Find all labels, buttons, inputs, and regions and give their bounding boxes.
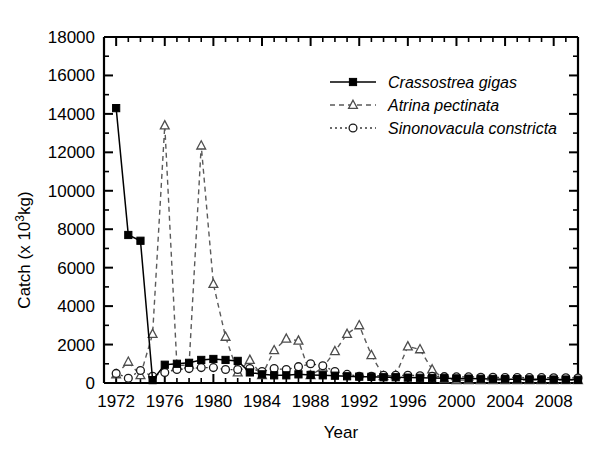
data-point-marker: [209, 364, 217, 372]
data-point-marker: [319, 362, 327, 370]
svg-text:Catch (x 103kg): Catch (x 103kg): [13, 191, 34, 308]
data-point-marker: [234, 357, 241, 364]
data-point-marker: [441, 375, 448, 382]
data-point-marker: [392, 374, 399, 381]
data-point-marker: [185, 359, 192, 366]
data-point-marker: [258, 371, 265, 378]
x-tick-label: 2008: [535, 392, 573, 411]
y-axis-title-pre: Catch (x 10: [15, 222, 34, 309]
data-point-marker: [113, 105, 120, 112]
data-point-marker: [210, 355, 217, 362]
data-point-marker: [404, 374, 411, 381]
data-point-marker: [161, 369, 169, 377]
legend-marker: [349, 124, 357, 132]
chart-svg: 0200040006000800010000120001400016000180…: [0, 0, 609, 461]
data-point-marker: [403, 342, 412, 350]
data-point-marker: [307, 360, 315, 368]
data-point-marker: [380, 374, 387, 381]
data-point-marker: [137, 237, 144, 244]
data-point-marker: [124, 357, 133, 365]
data-point-marker: [125, 231, 132, 238]
x-tick-label: 1984: [243, 392, 281, 411]
y-axis-title-post: kg): [15, 191, 34, 215]
x-tick-label: 1976: [146, 392, 184, 411]
data-point-marker: [209, 279, 218, 287]
data-point-marker: [160, 121, 169, 129]
data-point-marker: [222, 366, 230, 374]
data-point-marker: [295, 371, 302, 378]
series-markers: [112, 121, 583, 384]
data-point-marker: [331, 346, 340, 354]
plot-series-group: [112, 105, 583, 384]
data-point-marker: [574, 376, 581, 383]
data-point-marker: [137, 367, 145, 375]
series-line: [116, 125, 578, 380]
data-point-marker: [355, 321, 364, 329]
y-tick-label: 12000: [48, 143, 95, 162]
data-point-marker: [234, 366, 242, 374]
data-point-marker: [343, 373, 350, 380]
data-point-marker: [416, 374, 423, 381]
x-axis-title: Year: [324, 423, 359, 442]
series-atrina-pectinata: [112, 121, 583, 384]
x-tick-label: 1996: [389, 392, 427, 411]
data-point-marker: [331, 372, 338, 379]
data-point-marker: [246, 369, 253, 376]
legend-item: Sinonovacula constricta: [330, 120, 557, 137]
data-point-marker: [270, 346, 279, 354]
data-point-marker: [356, 373, 363, 380]
data-point-marker: [538, 376, 545, 383]
data-point-marker: [465, 375, 472, 382]
x-tick-label: 1980: [194, 392, 232, 411]
data-point-marker: [271, 372, 278, 379]
data-point-marker: [416, 345, 425, 353]
series-line: [116, 108, 578, 380]
x-tick-label: 1988: [292, 392, 330, 411]
legend-item: Crassostrea gigas: [330, 74, 517, 91]
legend-label: Sinonovacula constricta: [388, 120, 557, 137]
data-point-marker: [112, 369, 120, 377]
y-axis-tick-labels: 0200040006000800010000120001400016000180…: [48, 28, 95, 393]
data-point-marker: [343, 329, 352, 337]
y-tick-label: 14000: [48, 105, 95, 124]
data-point-marker: [149, 377, 156, 384]
legend-item: Atrina pectinata: [330, 97, 499, 114]
data-point-marker: [295, 363, 303, 371]
y-tick-label: 6000: [57, 259, 95, 278]
data-point-marker: [562, 376, 569, 383]
data-point-marker: [550, 376, 557, 383]
x-tick-label: 1972: [97, 392, 135, 411]
y-tick-label: 18000: [48, 28, 95, 47]
x-tick-label: 2000: [438, 392, 476, 411]
data-point-marker: [367, 350, 376, 358]
data-point-marker: [429, 374, 436, 381]
data-point-marker: [245, 355, 254, 363]
y-tick-label: 0: [86, 374, 95, 393]
x-tick-label: 2004: [486, 392, 524, 411]
y-axis-title: Catch (x 103kg): [13, 191, 34, 308]
data-point-marker: [489, 375, 496, 382]
data-point-marker: [221, 332, 230, 340]
x-tick-label: 1992: [340, 392, 378, 411]
data-point-marker: [319, 372, 326, 379]
data-point-marker: [124, 374, 132, 382]
data-point-marker: [161, 361, 168, 368]
data-point-marker: [477, 375, 484, 382]
data-point-marker: [197, 364, 205, 372]
data-point-marker: [501, 376, 508, 383]
legend-label: Crassostrea gigas: [388, 74, 517, 91]
data-point-marker: [526, 376, 533, 383]
data-point-marker: [198, 356, 205, 363]
legend-label: Atrina pectinata: [387, 97, 499, 114]
data-point-marker: [453, 375, 460, 382]
data-point-marker: [283, 372, 290, 379]
y-tick-label: 2000: [57, 336, 95, 355]
y-tick-label: 16000: [48, 66, 95, 85]
data-point-marker: [368, 373, 375, 380]
y-tick-label: 10000: [48, 182, 95, 201]
data-point-marker: [514, 376, 521, 383]
y-tick-label: 8000: [57, 220, 95, 239]
data-point-marker: [282, 334, 291, 342]
data-point-marker: [222, 356, 229, 363]
data-point-marker: [173, 360, 180, 367]
